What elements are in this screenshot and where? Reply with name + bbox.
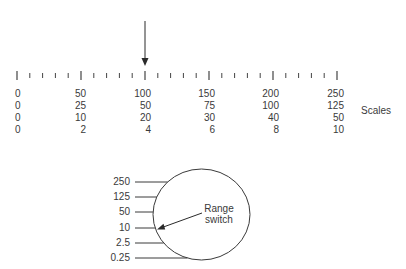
scale-value: 200: [249, 89, 279, 99]
scale-value: 0: [15, 101, 35, 111]
scale-value: 10: [56, 113, 86, 123]
meter-diagram: 0 50 100 150 200 250 0 25 50 75 100 125 …: [0, 0, 406, 269]
range-position-label: 50: [100, 207, 130, 217]
range-position-label: 250: [100, 177, 130, 187]
scale-value: 100: [249, 101, 279, 111]
scales-label: Scales: [361, 106, 391, 116]
scale-value: 100: [121, 89, 151, 99]
scale-value: 30: [185, 113, 215, 123]
scale-value: 25: [56, 101, 86, 111]
scale-value: 0: [15, 89, 35, 99]
range-switch-caption-line2: switch: [196, 214, 242, 225]
scale-value: 4: [121, 125, 151, 135]
ruler-ticks: [17, 71, 337, 80]
scale-value: 150: [185, 89, 215, 99]
scale-value: 50: [56, 89, 86, 99]
range-position-label: 2.5: [100, 238, 130, 248]
range-position-label: 125: [100, 192, 130, 202]
scale-value: 50: [314, 113, 344, 123]
scale-value: 250: [314, 89, 344, 99]
scale-value: 40: [249, 113, 279, 123]
scale-value: 10: [314, 125, 344, 135]
scale-value: 0: [15, 113, 35, 123]
range-switch-caption-line1: Range: [196, 203, 242, 214]
range-switch-caption: Range switch: [196, 203, 242, 225]
scale-value: 20: [121, 113, 151, 123]
range-position-label: 10: [100, 223, 130, 233]
scale-value: 0: [15, 125, 35, 135]
scale-value: 2: [56, 125, 86, 135]
range-position-label: 0.25: [100, 253, 130, 263]
scale-value: 50: [121, 101, 151, 111]
pointer-arrow-icon: [142, 21, 149, 66]
scale-value: 125: [314, 101, 344, 111]
range-switch-position-lines: [135, 182, 187, 258]
scale-value: 8: [249, 125, 279, 135]
scale-value: 75: [185, 101, 215, 111]
scale-value: 6: [185, 125, 215, 135]
